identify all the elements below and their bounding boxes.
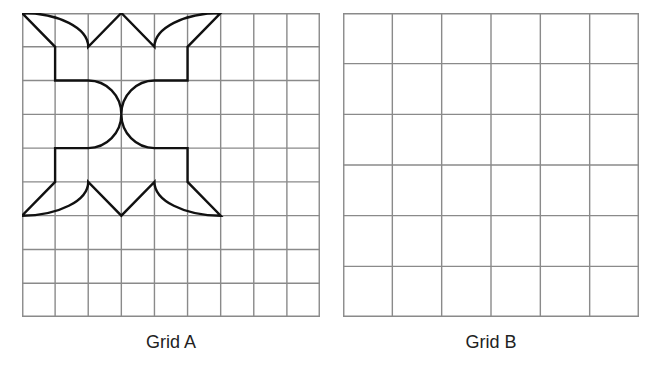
grid-b: [343, 13, 639, 317]
grid-b-label: Grid B: [391, 332, 591, 353]
grid-b-canvas: [343, 13, 639, 317]
grid-a: [22, 13, 320, 317]
grid-a-canvas: [22, 13, 320, 317]
grid-a-label: Grid A: [71, 332, 271, 353]
